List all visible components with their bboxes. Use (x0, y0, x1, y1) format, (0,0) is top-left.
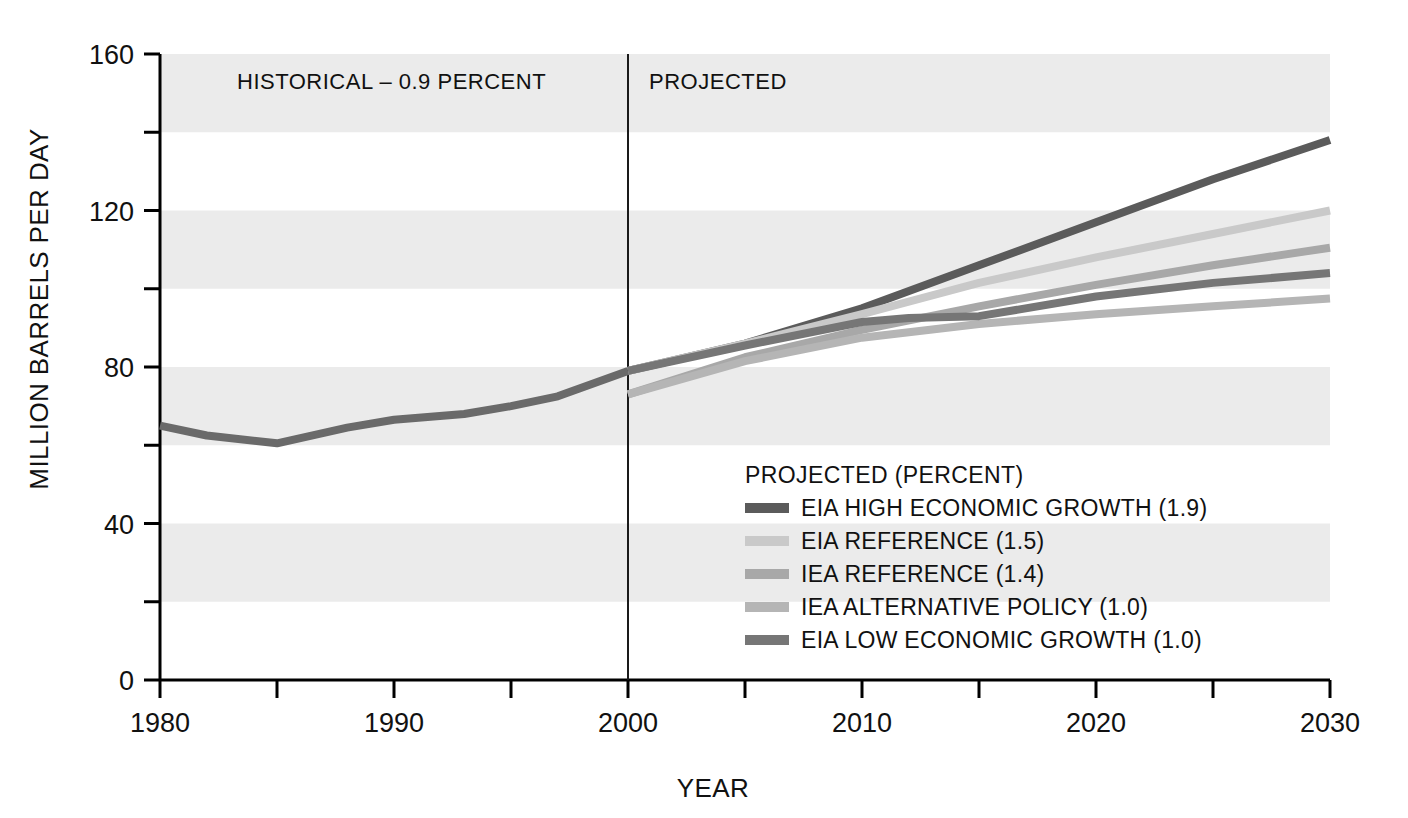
legend-item-label: IEA REFERENCE (1.4) (801, 561, 1044, 587)
x-axis-tick-label: 2000 (598, 708, 658, 738)
y-axis-title: MILLION BARRELS PER DAY (24, 128, 54, 489)
y-axis-tick-label: 80 (104, 353, 134, 383)
legend-swatch (745, 569, 789, 579)
legend-title: PROJECTED (PERCENT) (745, 462, 1024, 488)
x-axis-tick-label: 2030 (1300, 708, 1360, 738)
historical-label: HISTORICAL – 0.9 PERCENT (237, 69, 546, 94)
legend-item-label: EIA LOW ECONOMIC GROWTH (1.0) (801, 627, 1202, 653)
projected-label: PROJECTED (649, 69, 787, 94)
legend-item-label: IEA ALTERNATIVE POLICY (1.0) (801, 594, 1148, 620)
x-axis-tick-label: 2010 (832, 708, 892, 738)
background-band (160, 524, 1330, 602)
x-axis-tick-label: 1980 (130, 708, 190, 738)
legend-item-label: EIA REFERENCE (1.5) (801, 528, 1044, 554)
x-axis-tick-label: 2020 (1066, 708, 1126, 738)
legend-swatch (745, 536, 789, 546)
legend-item-label: EIA HIGH ECONOMIC GROWTH (1.9) (801, 495, 1207, 521)
oil-demand-line-chart: 04080120160198019902000201020202030 HIST… (0, 0, 1408, 818)
y-axis-tick-label: 120 (89, 197, 134, 227)
legend-swatch (745, 602, 789, 612)
x-axis-tick-label: 1990 (364, 708, 424, 738)
chart-container: 04080120160198019902000201020202030 HIST… (0, 0, 1408, 818)
x-axis-title: YEAR (677, 773, 749, 803)
region-annotations: HISTORICAL – 0.9 PERCENTPROJECTED (237, 69, 787, 94)
y-axis-tick-label: 0 (119, 666, 134, 696)
y-axis-tick-label: 160 (89, 40, 134, 70)
legend-swatch (745, 635, 789, 645)
y-axis-tick-label: 40 (104, 510, 134, 540)
legend-swatch (745, 503, 789, 513)
